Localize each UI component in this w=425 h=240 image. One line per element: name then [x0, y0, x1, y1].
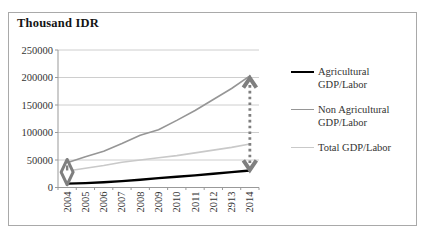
series-line-non-agricultural-gdp-labor: [67, 76, 250, 163]
legend-label-line: Total GDP/Labor: [318, 142, 391, 155]
legend-item-agricultural: Agricultural GDP/Labor: [291, 66, 423, 91]
x-tick-label: 2009: [153, 192, 164, 213]
x-tick-label: 2913: [226, 192, 237, 213]
legend-label-line: Non Agricultural: [318, 104, 389, 117]
annotations: [61, 78, 256, 185]
gap-marker-diamond: [61, 159, 73, 184]
y-tick-label: 100000: [22, 127, 54, 138]
y-tick-label: 200000: [22, 72, 54, 83]
series-line-total-gdp-labor: [67, 144, 250, 171]
y-tick-label: 0: [48, 182, 53, 193]
legend-line-swatch-total: [291, 147, 314, 148]
y-tick-label: 250000: [22, 45, 54, 56]
x-tick-label: 2004: [62, 191, 73, 213]
series-lines: [67, 76, 250, 184]
y-tick-label: 150000: [22, 100, 54, 111]
chart-figure: Thousand IDR 050000100000150000200000250…: [0, 0, 425, 240]
y-axis-labels: 050000100000150000200000250000: [22, 45, 54, 194]
legend: Agricultural GDP/Labor Non Agricultural …: [291, 66, 423, 168]
x-axis-labels: 2004200520062007200820092010201120122913…: [62, 191, 256, 213]
x-tick-label: 2011: [190, 192, 201, 213]
legend-item-non-agricultural: Non Agricultural GDP/Labor: [291, 104, 423, 129]
legend-label-line: GDP/Labor: [318, 79, 369, 92]
legend-item-total: Total GDP/Labor: [291, 142, 423, 155]
x-tick-label: 2014: [244, 191, 255, 213]
x-tick-label: 2007: [116, 192, 127, 213]
y-tick-label: 50000: [27, 155, 53, 166]
legend-line-swatch-non-agricultural: [291, 109, 314, 110]
legend-label-line: Agricultural: [318, 66, 369, 79]
x-tick-label: 2005: [80, 192, 91, 213]
x-tick-label: 2006: [98, 192, 109, 213]
x-tick-label: 2008: [135, 192, 146, 213]
x-tick-label: 2010: [171, 192, 182, 213]
gridlines: [58, 50, 259, 160]
legend-label-line: GDP/Labor: [318, 117, 389, 130]
legend-line-swatch-agricultural: [291, 71, 314, 73]
x-tick-label: 2012: [208, 192, 219, 213]
series-line-agricultural-gdp-labor: [67, 170, 250, 183]
